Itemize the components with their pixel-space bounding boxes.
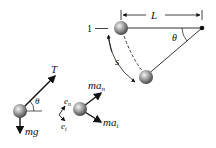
en-label: en xyxy=(64,96,71,107)
swing-path xyxy=(124,36,143,72)
position-label: 1 xyxy=(87,23,92,34)
weight-label: mg xyxy=(25,125,39,137)
pivot-point xyxy=(200,26,205,31)
kinetic-diagram: man mat xyxy=(73,79,119,130)
ball-position-2 xyxy=(139,70,153,84)
normal-tangent-axes: en et xyxy=(59,96,71,132)
pendulum-diagram: L 1 s θ T θ mg en xyxy=(0,0,216,148)
fbd-angle-arc xyxy=(30,101,34,111)
kinetic-ball xyxy=(73,102,87,116)
length-dimension: L xyxy=(121,9,202,21)
angle-label: θ xyxy=(172,32,177,43)
tangent-inertia-label: mat xyxy=(103,116,119,130)
arc-arrow xyxy=(108,36,135,82)
en-axis-arrow xyxy=(59,106,65,115)
length-label: L xyxy=(150,9,157,21)
arc-label: s xyxy=(115,55,119,67)
angle-arc xyxy=(182,28,187,41)
normal-inertia-label: man xyxy=(88,79,105,93)
ball-position-1 xyxy=(114,21,128,35)
et-label: et xyxy=(61,121,67,132)
tension-label: T xyxy=(51,63,58,75)
pendulum-system: L 1 s θ xyxy=(87,9,204,84)
fbd-ball xyxy=(13,104,27,118)
free-body-diagram: T θ mg xyxy=(13,63,58,137)
fbd-angle-label: θ xyxy=(35,96,40,106)
